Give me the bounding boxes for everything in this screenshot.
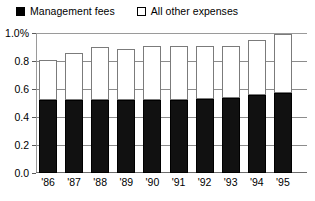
y-axis-tick-label: 0.6 (14, 84, 29, 95)
bar-segment-management-fees (222, 98, 240, 173)
x-axis-tick-label: '95 (270, 176, 296, 188)
y-axis-tick-label: 0.4 (14, 112, 29, 123)
bar-segment-management-fees (196, 99, 214, 173)
bar-segment-all-other-expenses (248, 40, 266, 95)
bar-segment-management-fees (170, 100, 188, 173)
y-axis-tick-label: 1.0% (5, 28, 29, 39)
x-axis-tick-label: '87 (61, 176, 87, 188)
stacked-bar-chart: Management feesAll other expenses 1.0%0.… (0, 0, 315, 201)
bar-group (117, 49, 135, 173)
bar-group (91, 47, 109, 173)
y-axis-tick-label: 0.8 (14, 56, 29, 67)
x-axis-tick-label: '91 (166, 176, 192, 188)
chart-legend: Management feesAll other expenses (16, 4, 238, 18)
bar-segment-all-other-expenses (274, 34, 292, 93)
legend-label: Management fees (30, 6, 115, 17)
bar-segment-all-other-expenses (91, 47, 109, 100)
bar-segment-management-fees (248, 95, 266, 173)
x-axis-tick-label: '94 (244, 176, 270, 188)
plot-area: 1.0%0.80.60.40.20.0 (36, 33, 307, 173)
bar-group (65, 53, 83, 173)
bar-series-container (36, 33, 307, 173)
bar-segment-management-fees (91, 100, 109, 173)
bar-group (274, 34, 292, 173)
bar-segment-management-fees (274, 93, 292, 173)
bar-group (170, 46, 188, 173)
legend-swatch-hollow-square-icon (137, 7, 146, 16)
bar-group (222, 46, 240, 173)
bar-segment-all-other-expenses (65, 53, 83, 101)
x-axis-tick-label: '90 (139, 176, 165, 188)
bar-segment-all-other-expenses (170, 46, 188, 101)
bar-segment-management-fees (143, 100, 161, 173)
x-axis-tick-label: '88 (87, 176, 113, 188)
bar-segment-management-fees (65, 100, 83, 173)
bar-group (248, 40, 266, 173)
bar-group (196, 46, 214, 173)
bar-segment-management-fees (39, 100, 57, 173)
y-axis-tick-mark (32, 173, 36, 174)
bar-segment-all-other-expenses (39, 60, 57, 101)
x-axis-tick-label: '92 (192, 176, 218, 188)
x-axis-tick-label: '86 (35, 176, 61, 188)
bar-segment-management-fees (117, 100, 135, 173)
y-axis-tick-label: 0.2 (14, 140, 29, 151)
y-axis-tick-label: 0.0 (14, 168, 29, 179)
bar-group (143, 46, 161, 173)
bar-segment-all-other-expenses (117, 49, 135, 100)
x-axis-tick-label: '93 (218, 176, 244, 188)
bar-segment-all-other-expenses (196, 46, 214, 99)
legend-label: All other expenses (151, 6, 238, 17)
x-axis-ticks: '86'87'88'89'90'91'92'93'94'95 (36, 176, 307, 192)
x-axis-tick-label: '89 (113, 176, 139, 188)
bar-segment-all-other-expenses (222, 46, 240, 98)
legend-entry: All other expenses (137, 6, 238, 17)
legend-swatch-filled-square-icon (16, 7, 25, 16)
bar-group (39, 60, 57, 173)
bar-segment-all-other-expenses (143, 46, 161, 100)
legend-entry: Management fees (16, 6, 115, 17)
